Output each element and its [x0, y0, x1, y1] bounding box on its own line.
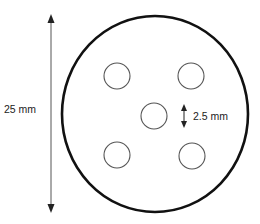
- hole-dimension-arrow: [181, 104, 187, 128]
- hole-top-left: [104, 63, 130, 89]
- arrow-down-icon: [48, 204, 55, 213]
- arrow-up-icon: [181, 104, 187, 111]
- holes-group: [104, 63, 205, 169]
- arrow-down-icon: [181, 121, 187, 128]
- diameter-dimension-arrow: [48, 14, 55, 213]
- hole-diameter-label: 2.5 mm: [193, 111, 228, 122]
- hole-bottom-right: [179, 143, 205, 169]
- arrow-up-icon: [48, 14, 55, 23]
- hole-bottom-left: [104, 142, 130, 168]
- diameter-label: 25 mm: [4, 104, 36, 115]
- hole-top-right: [178, 63, 204, 89]
- hole-center: [141, 103, 167, 129]
